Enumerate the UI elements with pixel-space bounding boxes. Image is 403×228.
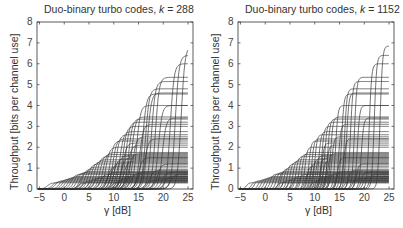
y-tick-label: 0 [27,184,33,194]
x-tick-label: 25 [383,193,394,203]
x-tick-label: 5 [287,193,293,203]
x-axis-label: γ [dB] [104,204,131,216]
y-axis-label: Throughput [bits per channel use] [8,34,20,190]
y-tick-label: 4 [228,101,234,111]
curve-group [239,46,388,189]
y-tick-label: 6 [228,59,234,69]
x-tick-label: 15 [334,193,345,203]
x-tick-label: −5 [34,193,45,203]
chart-panel-k288: Duo-binary turbo codes, k = 288 Throughp… [0,0,200,228]
y-tick-label: 8 [27,17,33,27]
x-tick-label: 20 [158,193,169,203]
x-tick-label: 0 [61,193,67,203]
x-tick-label: −5 [235,193,246,203]
y-tick-label: 0 [228,184,234,194]
y-tick-label: 8 [228,17,234,27]
y-tick-label: 7 [27,38,33,48]
x-tick-label: 15 [133,193,144,203]
x-tick-label: 25 [182,193,193,203]
y-tick-label: 3 [228,121,234,131]
x-tick-label: 20 [359,193,370,203]
y-tick-label: 1 [27,163,33,173]
y-tick-label: 3 [27,121,33,131]
chart-panel-k1152: Duo-binary turbo codes, k = 1152 Through… [201,0,401,228]
y-tick-label: 2 [228,142,234,152]
x-axis-label: γ [dB] [305,204,332,216]
x-tick-label: 0 [262,193,268,203]
x-tick-label: 10 [309,193,320,203]
y-tick-label: 5 [228,80,234,90]
y-tick-label: 6 [27,59,33,69]
y-axis-label: Throughput [bits per channel use] [209,34,221,190]
y-tick-label: 1 [228,163,234,173]
x-tick-label: 10 [108,193,119,203]
y-tick-label: 4 [27,101,33,111]
y-tick-label: 2 [27,142,33,152]
x-tick-label: 5 [86,193,92,203]
y-tick-label: 7 [228,38,234,48]
curve-group [38,50,187,189]
y-tick-label: 5 [27,80,33,90]
